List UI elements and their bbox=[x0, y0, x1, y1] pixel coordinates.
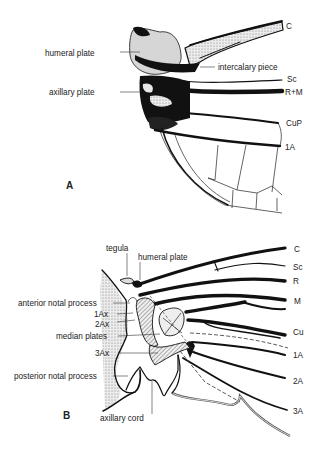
label-r-b: R bbox=[293, 277, 299, 286]
label-3a-b: 3A bbox=[293, 407, 304, 416]
label-1a-a: 1A bbox=[285, 143, 296, 152]
label-tegula: tegula bbox=[106, 244, 129, 253]
panel-b: tegula humeral plate anterior notal proc… bbox=[14, 244, 304, 436]
label-humeral-plate-b: humeral plate bbox=[138, 253, 188, 262]
label-m-b: M bbox=[294, 297, 301, 306]
label-1a-b: 1A bbox=[293, 351, 304, 360]
label-1ax: 1Ax bbox=[94, 310, 108, 319]
label-2a-b: 2A bbox=[293, 377, 304, 386]
panel-label-a: A bbox=[66, 180, 73, 191]
label-humeral-plate-a: humeral plate bbox=[45, 49, 95, 58]
label-anterior-notal-process: anterior notal process bbox=[18, 299, 97, 308]
label-posterior-notal-process: posterior notal process bbox=[14, 372, 97, 381]
label-sc-b: Sc bbox=[293, 263, 303, 272]
label-cup-a: CuP bbox=[286, 119, 302, 128]
label-intercalary-piece: intercalary piece bbox=[218, 63, 278, 72]
label-2ax: 2Ax bbox=[95, 320, 109, 329]
panel-a: humeral plate axillary plate C intercala… bbox=[45, 21, 303, 213]
label-cu-b: Cu bbox=[293, 328, 304, 337]
label-median-plates: median plates bbox=[56, 332, 107, 341]
wing-articulation-figure: humeral plate axillary plate C intercala… bbox=[0, 0, 321, 451]
label-c-a: C bbox=[286, 22, 292, 31]
label-rm-a: R+M bbox=[285, 88, 303, 97]
panel-label-b: B bbox=[63, 410, 70, 421]
label-sc-a: Sc bbox=[287, 75, 297, 84]
label-axillary-plate-a: axillary plate bbox=[49, 88, 95, 97]
label-c-b: C bbox=[294, 245, 300, 254]
label-axillary-cord: axillary cord bbox=[100, 414, 144, 423]
wing-membrane-cells bbox=[160, 123, 282, 213]
label-3ax: 3Ax bbox=[95, 349, 109, 358]
